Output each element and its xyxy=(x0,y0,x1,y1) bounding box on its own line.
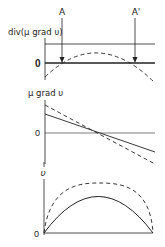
marker-a-prime: A' xyxy=(132,7,141,63)
panel-middle-zero-label: 0 xyxy=(35,128,40,138)
panel-middle-ylabel: μ grad υ xyxy=(28,88,63,98)
panel-middle: μ grad υ 0 xyxy=(28,88,155,164)
panel-middle-dashed-line xyxy=(45,105,155,164)
panel-bottom-zero-label: 0 xyxy=(34,229,39,239)
arrow-down-icon xyxy=(133,57,138,63)
panel-bottom: υ 0 xyxy=(34,162,153,239)
panel-top-zero-label: 0 xyxy=(35,58,41,69)
panel-bottom-dashed-curve xyxy=(44,183,153,233)
panel-top: div(μ grad υ) 0 xyxy=(8,27,155,83)
panel-top-ylabel: div(μ grad υ) xyxy=(8,27,63,37)
marker-a-prime-label: A' xyxy=(132,7,141,17)
velocity-profile-diagram: A A' div(μ grad υ) 0 μ grad υ 0 υ 0 xyxy=(0,0,165,247)
panel-bottom-ylabel: υ xyxy=(40,168,45,178)
marker-a-label: A xyxy=(59,7,66,17)
panel-bottom-solid-curve xyxy=(44,197,153,234)
